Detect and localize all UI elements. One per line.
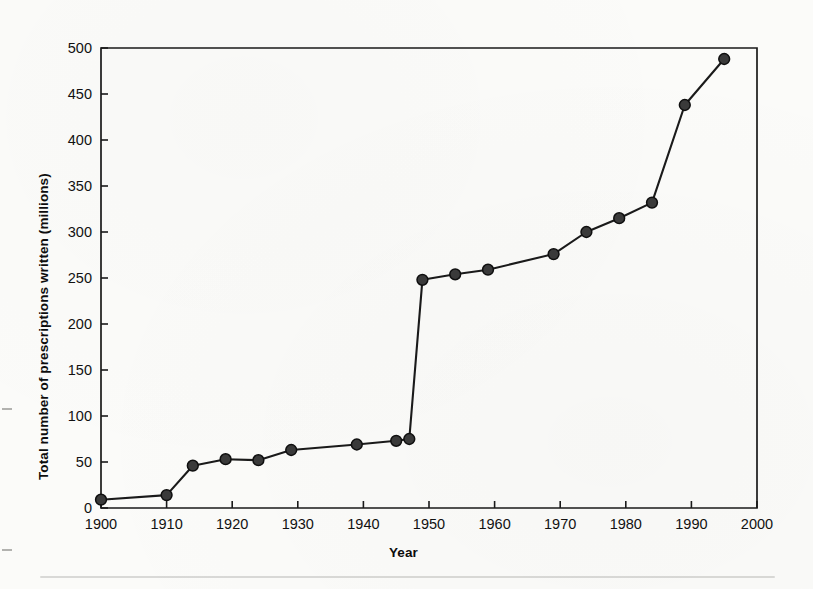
y-tick-label: 450 (30, 86, 92, 102)
x-tick-label: 1980 (610, 516, 642, 532)
data-point-marker (351, 439, 362, 450)
data-point-marker (548, 249, 559, 260)
data-point-marker (96, 494, 107, 505)
data-point-marker (253, 455, 264, 466)
y-tick-label: 500 (30, 40, 92, 56)
x-tick-label: 1940 (347, 516, 379, 532)
data-point-marker (614, 213, 625, 224)
x-tick-label: 1910 (150, 516, 182, 532)
data-point-marker (647, 197, 658, 208)
data-point-marker (161, 490, 172, 501)
y-tick-label: 350 (30, 178, 92, 194)
data-point-marker (719, 54, 730, 65)
x-tick-label: 1970 (544, 516, 576, 532)
x-axis-title: Year (389, 545, 418, 560)
data-point-marker (581, 227, 592, 238)
data-point-marker (391, 435, 402, 446)
x-tick-label: 1930 (282, 516, 314, 532)
data-point-marker (220, 454, 231, 465)
x-tick-label: 1920 (216, 516, 248, 532)
data-series-markers (96, 54, 730, 506)
data-point-marker (286, 445, 297, 456)
x-tick-label: 1950 (413, 516, 445, 532)
data-point-marker (450, 269, 461, 280)
data-point-marker (187, 460, 198, 471)
y-tick-label: 200 (30, 316, 92, 332)
y-tick-label: 150 (30, 362, 92, 378)
data-point-marker (417, 274, 428, 285)
y-axis-ticks (101, 48, 108, 508)
x-tick-label: 1960 (478, 516, 510, 532)
x-tick-label: 1990 (675, 516, 707, 532)
y-tick-label: 50 (30, 454, 92, 470)
data-series-line (101, 59, 724, 500)
y-tick-label: 100 (30, 408, 92, 424)
data-point-marker (404, 434, 415, 445)
x-tick-label: 2000 (741, 516, 773, 532)
data-point-marker (483, 264, 494, 275)
x-tick-label: 1900 (85, 516, 117, 532)
x-axis-ticks (101, 501, 757, 508)
series-polyline (101, 59, 724, 500)
y-tick-label: 300 (30, 224, 92, 240)
chart-screenshot: Total number of prescriptions written (m… (0, 0, 813, 589)
y-tick-label: 0 (30, 500, 92, 516)
y-tick-label: 250 (30, 270, 92, 286)
y-tick-label: 400 (30, 132, 92, 148)
data-point-marker (679, 100, 690, 111)
line-chart-plot (0, 0, 813, 589)
